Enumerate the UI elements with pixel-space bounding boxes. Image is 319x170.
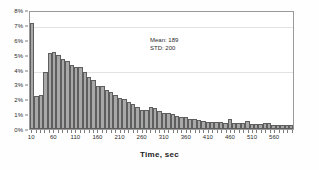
x-axis-tick-mark: [115, 130, 116, 133]
x-axis-tick-label: 60: [50, 134, 57, 140]
x-axis-tick-mark: [137, 130, 138, 133]
y-axis-tick-label: 8%: [14, 8, 23, 14]
x-axis-tick-mark: [195, 130, 196, 133]
plot-area: [29, 11, 294, 130]
y-axis-tick-label: 5%: [14, 53, 23, 59]
x-axis-tick-mark: [265, 130, 266, 133]
y-axis-tick-mark: [25, 130, 28, 131]
x-axis-tick-mark: [186, 130, 187, 133]
x-axis-tick-mark: [155, 130, 156, 133]
x-axis-tick-mark: [36, 130, 37, 133]
x-axis-tick-label: 110: [71, 134, 81, 140]
x-axis-tick-mark: [208, 130, 209, 133]
x-axis-tick-mark: [124, 130, 125, 133]
y-axis-tick-mark: [25, 70, 28, 71]
x-axis-tick-mark: [150, 130, 151, 133]
x-axis-tick-mark: [230, 130, 231, 133]
bar: [289, 125, 293, 129]
x-axis-tick-mark: [173, 130, 174, 133]
x-axis-tick-mark: [159, 130, 160, 133]
y-axis-tick-mark: [25, 55, 28, 56]
x-axis-tick-mark: [106, 130, 107, 133]
x-axis-tick-label: 460: [225, 134, 235, 140]
x-axis-tick-mark: [71, 130, 72, 133]
stats-annotation: Mean: 189 STD: 200: [150, 36, 178, 52]
x-axis-tick-mark: [221, 130, 222, 133]
x-axis-tick-mark: [80, 130, 81, 133]
x-axis-tick-mark: [40, 130, 41, 133]
x-axis-tick-label: 310: [159, 134, 169, 140]
y-axis-tick-label: 4%: [14, 68, 23, 74]
x-axis-tick-mark: [111, 130, 112, 133]
y-axis-tick-mark: [25, 115, 28, 116]
x-axis-tick-mark: [181, 130, 182, 133]
x-axis: 1060110160210260310360410460510560: [29, 130, 294, 146]
x-axis-tick-mark: [292, 130, 293, 133]
histogram-chart: 0%1%2%3%4%5%6%7%8% Mean: 189 STD: 200 10…: [0, 0, 319, 170]
x-axis-tick-label: 360: [181, 134, 191, 140]
y-axis-tick-label: 6%: [14, 38, 23, 44]
x-axis-tick-mark: [84, 130, 85, 133]
x-axis-tick-mark: [31, 130, 32, 133]
x-axis-tick-mark: [203, 130, 204, 133]
x-axis-tick-mark: [270, 130, 271, 133]
x-axis-tick-mark: [274, 130, 275, 133]
x-axis-tick-mark: [58, 130, 59, 133]
x-axis-tick-mark: [239, 130, 240, 133]
x-axis-tick-mark: [67, 130, 68, 133]
y-axis-tick-mark: [25, 100, 28, 101]
x-axis-tick-mark: [93, 130, 94, 133]
x-axis-title: Time, sec: [0, 150, 319, 159]
x-axis-tick-mark: [62, 130, 63, 133]
x-axis-tick-mark: [102, 130, 103, 133]
x-axis-tick-mark: [248, 130, 249, 133]
y-axis-tick-mark: [25, 85, 28, 86]
y-axis-tick-label: 3%: [14, 82, 23, 88]
x-axis-tick-mark: [120, 130, 121, 133]
x-axis-tick-mark: [261, 130, 262, 133]
x-axis-tick-mark: [44, 130, 45, 133]
x-axis-tick-mark: [234, 130, 235, 133]
std-label: STD: 200: [150, 44, 178, 52]
x-axis-tick-label: 510: [247, 134, 257, 140]
y-axis-tick-label: 7%: [14, 23, 23, 29]
x-axis-tick-mark: [75, 130, 76, 133]
x-axis-tick-mark: [146, 130, 147, 133]
x-axis-tick-mark: [142, 130, 143, 133]
x-axis-tick-mark: [164, 130, 165, 133]
y-axis-tick-label: 0%: [14, 127, 23, 133]
x-axis-tick-mark: [283, 130, 284, 133]
bar-series: [30, 12, 293, 129]
x-axis-tick-label: 260: [137, 134, 147, 140]
x-axis-tick-label: 210: [115, 134, 125, 140]
x-axis-tick-mark: [279, 130, 280, 133]
y-axis-tick-mark: [25, 25, 28, 26]
x-axis-tick-label: 160: [92, 134, 102, 140]
x-axis-tick-mark: [190, 130, 191, 133]
x-axis-tick-mark: [256, 130, 257, 133]
y-axis-tick-mark: [25, 40, 28, 41]
x-axis-tick-mark: [168, 130, 169, 133]
mean-label: Mean: 189: [150, 36, 178, 44]
y-axis-tick-mark: [25, 11, 28, 12]
x-axis-tick-mark: [226, 130, 227, 133]
x-axis-tick-mark: [177, 130, 178, 133]
x-axis-tick-mark: [89, 130, 90, 133]
x-axis-tick-mark: [97, 130, 98, 133]
x-axis-tick-mark: [212, 130, 213, 133]
x-axis-tick-label: 560: [269, 134, 279, 140]
x-axis-tick-label: 10: [28, 134, 35, 140]
y-axis: 0%1%2%3%4%5%6%7%8%: [0, 11, 28, 130]
x-axis-tick-mark: [199, 130, 200, 133]
x-axis-tick-label: 410: [203, 134, 213, 140]
x-axis-tick-mark: [133, 130, 134, 133]
x-axis-tick-mark: [252, 130, 253, 133]
x-axis-tick-mark: [243, 130, 244, 133]
y-axis-tick-label: 2%: [14, 97, 23, 103]
x-axis-tick-mark: [49, 130, 50, 133]
y-axis-tick-label: 1%: [14, 112, 23, 118]
x-axis-tick-mark: [287, 130, 288, 133]
x-axis-tick-mark: [128, 130, 129, 133]
x-axis-tick-mark: [217, 130, 218, 133]
x-axis-tick-mark: [53, 130, 54, 133]
